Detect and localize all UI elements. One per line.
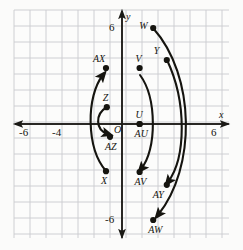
y-axis-label: y [126, 12, 130, 22]
point-V [137, 65, 143, 71]
x-tick-label--6: -6 [19, 127, 28, 138]
origin-label: O [114, 125, 121, 135]
point-label-AU: AU [135, 129, 148, 139]
y-tick-label--6: -6 [105, 214, 114, 225]
point-label-X: X [101, 176, 107, 186]
point-W [150, 25, 156, 31]
point-AU [137, 121, 143, 127]
point-label-W: W [139, 21, 147, 31]
point-label-AV: AV [135, 177, 147, 187]
point-label-AY: AY [153, 190, 164, 200]
point-label-Y: Y [154, 46, 160, 56]
coordinate-plane-svg [0, 0, 243, 250]
x-tick-label--4: -4 [52, 127, 61, 138]
point-label-U: U [136, 110, 143, 120]
x-tick-label-6: 6 [211, 127, 217, 138]
point-AX [103, 65, 109, 71]
point-label-AX: AX [93, 54, 105, 64]
point-Z [104, 104, 110, 110]
point-X [103, 168, 109, 174]
point-AV [137, 169, 143, 175]
point-label-V: V [136, 54, 142, 64]
x-axis-label: x [219, 110, 223, 120]
point-label-Z: Z [103, 93, 109, 103]
point-AZ [107, 134, 113, 140]
point-AW [150, 217, 156, 223]
point-label-AZ: AZ [105, 142, 117, 152]
diagram-canvas: -6 -4 6 6 -6 x y O AXZAZXVUAUAVWYAYAW [0, 0, 243, 250]
point-AY [164, 182, 170, 188]
point-label-AW: AW [148, 225, 162, 235]
point-Y [164, 57, 170, 63]
y-tick-label-6: 6 [109, 22, 115, 33]
